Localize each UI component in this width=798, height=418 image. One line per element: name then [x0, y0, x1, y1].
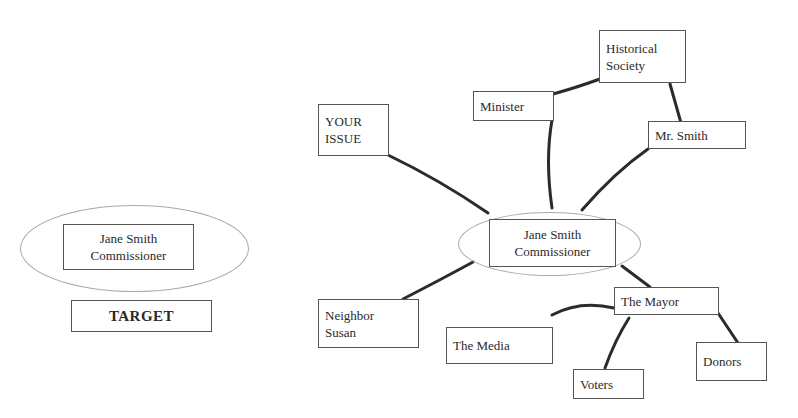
center-node: Jane Smith Commissioner [489, 219, 616, 267]
link-historical-mrsmith [670, 84, 681, 123]
center-node-line2: Commissioner [515, 244, 591, 259]
node-neighbor-susan: Neighbor Susan [318, 299, 419, 348]
link-mrsmith-center [582, 149, 648, 210]
node-minister: Minister [473, 91, 554, 121]
center-node-line1: Jane Smith [524, 227, 581, 242]
node-voters: Voters [573, 369, 644, 399]
link-minister-historical [553, 79, 600, 94]
node-the-media: The Media [446, 327, 553, 364]
link-center-mayor [622, 266, 650, 287]
target-node: Jane Smith Commissioner [63, 224, 194, 270]
link-your-issue-center [388, 155, 488, 213]
target-node-line2: Commissioner [91, 248, 167, 263]
node-your-issue: YOUR ISSUE [318, 104, 389, 156]
target-node-line1: Jane Smith [100, 231, 157, 246]
link-neighbor-center [403, 262, 473, 299]
node-historical-society: Historical Society [599, 30, 686, 83]
link-minister-center [549, 120, 553, 208]
node-mr-smith: Mr. Smith [648, 121, 746, 149]
target-label: TARGET [71, 300, 212, 332]
link-mayor-media [552, 305, 614, 315]
node-donors: Donors [696, 342, 767, 381]
node-the-mayor: The Mayor [614, 287, 719, 315]
link-mayor-voters [605, 318, 629, 368]
